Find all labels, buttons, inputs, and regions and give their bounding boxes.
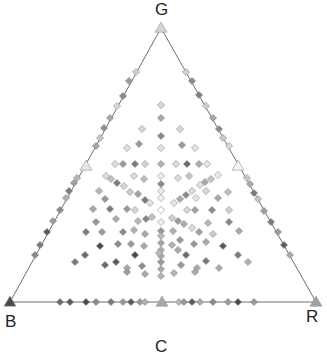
data-point-marker [176, 236, 183, 243]
data-points [31, 68, 293, 305]
data-point-marker [157, 265, 164, 272]
data-point-marker [176, 195, 183, 202]
data-point-marker [157, 232, 164, 239]
data-point-marker [214, 171, 221, 178]
data-point-marker [66, 298, 73, 305]
data-point-marker [170, 269, 177, 276]
data-point-marker [106, 205, 113, 212]
data-point-marker [141, 298, 148, 305]
data-point-marker [215, 264, 222, 271]
data-point-marker [169, 227, 176, 234]
data-point-marker [157, 160, 164, 167]
data-point-marker [202, 257, 209, 264]
triangle-marker [80, 160, 92, 170]
data-point-marker [65, 187, 72, 194]
data-point-marker [250, 298, 257, 305]
data-point-marker [112, 258, 119, 265]
data-point-marker [157, 132, 164, 139]
data-point-marker [134, 190, 141, 197]
data-point-marker [280, 241, 287, 248]
data-point-marker [123, 205, 130, 212]
data-point-marker [214, 194, 221, 201]
triangle-marker [310, 296, 322, 306]
data-point-marker [195, 91, 202, 98]
data-point-marker [157, 101, 164, 108]
data-point-marker [157, 180, 164, 187]
data-point-marker [234, 251, 241, 258]
data-point-marker [111, 160, 118, 167]
data-point-marker [174, 246, 181, 253]
data-point-marker [157, 194, 164, 201]
data-point-marker [176, 125, 183, 132]
data-point-marker [157, 258, 164, 265]
data-point-marker [138, 262, 145, 269]
triangle-marker [155, 22, 167, 32]
data-point-marker [188, 298, 195, 305]
data-point-marker [191, 206, 198, 213]
data-point-marker [113, 179, 120, 186]
data-point-marker [92, 142, 99, 149]
data-point-marker [183, 160, 190, 167]
data-point-marker [130, 172, 137, 179]
triangle-marker [156, 296, 168, 306]
data-point-marker [234, 298, 241, 305]
data-point-marker [119, 228, 126, 235]
data-point-marker [157, 206, 164, 213]
data-point-marker [92, 298, 99, 305]
data-point-marker [135, 140, 142, 147]
data-point-marker [119, 298, 126, 305]
data-point-marker [183, 206, 190, 213]
data-point-marker [157, 114, 164, 121]
data-point-marker [209, 230, 216, 237]
data-point-marker [170, 199, 177, 206]
data-point-marker [185, 172, 192, 179]
data-point-marker [141, 160, 148, 167]
data-point-marker [141, 230, 148, 237]
data-point-marker [126, 188, 133, 195]
data-point-marker [157, 187, 164, 194]
data-point-marker [138, 125, 145, 132]
data-point-marker [157, 144, 164, 151]
data-point-marker [127, 240, 134, 247]
data-point-marker [204, 219, 211, 226]
data-point-marker [82, 228, 89, 235]
data-point-marker [127, 298, 134, 305]
data-point-marker [157, 218, 164, 225]
data-point-marker [235, 227, 242, 234]
data-point-marker [157, 239, 164, 246]
vertex-label-g: G [155, 0, 168, 20]
data-point-marker [219, 242, 226, 249]
data-point-marker [95, 187, 102, 194]
data-point-marker [157, 172, 164, 179]
axis-label-partial: C [155, 337, 167, 356]
data-point-marker [178, 141, 185, 148]
data-point-marker [209, 298, 216, 305]
data-point-marker [182, 191, 189, 198]
data-point-marker [254, 195, 261, 202]
data-point-marker [112, 215, 119, 222]
data-point-marker [168, 241, 175, 248]
triangle-marker [4, 296, 16, 306]
data-point-marker [56, 298, 63, 305]
data-point-marker [134, 217, 141, 224]
data-point-marker [219, 134, 226, 141]
data-point-marker [224, 298, 231, 305]
data-point-marker [208, 206, 215, 213]
data-point-marker [114, 240, 121, 247]
data-point-marker [101, 195, 108, 202]
data-point-marker [188, 187, 195, 194]
data-point-marker [100, 124, 107, 131]
data-point-marker [188, 224, 195, 231]
data-point-marker [131, 251, 138, 258]
data-point-marker [98, 228, 105, 235]
data-point-marker [101, 261, 108, 268]
data-point-marker [192, 194, 199, 201]
data-point-marker [131, 160, 138, 167]
data-point-marker [202, 238, 209, 245]
data-point-marker [131, 206, 138, 213]
data-point-marker [82, 298, 89, 305]
data-point-marker [119, 160, 126, 167]
data-point-marker [157, 272, 164, 279]
data-point-marker [196, 298, 203, 305]
